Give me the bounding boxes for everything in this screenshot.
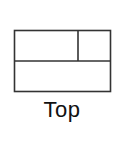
layout-option-label: Top: [0, 97, 124, 123]
layout-top-icon: [0, 0, 134, 148]
